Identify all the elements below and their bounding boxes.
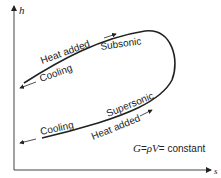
upper-heat-added-label: Heat added [39, 38, 91, 66]
equation: G=ρV= constant [133, 142, 205, 154]
lower-cooling-arrow [20, 139, 36, 143]
x-axis-label: s [214, 166, 218, 176]
fanno-curve [24, 31, 175, 138]
equation-constant: constant [165, 143, 206, 154]
fanno-line-diagram: h s Heat added Cooling Subsonic Superson… [0, 0, 221, 178]
y-axis-label: h [19, 4, 25, 16]
diagram-svg: h s Heat added Cooling Subsonic Superson… [0, 0, 221, 178]
equation-g: G [133, 142, 141, 154]
lower-heat-arrow [140, 110, 152, 116]
upper-cooling-arrow [20, 82, 36, 88]
subsonic-label: Subsonic [100, 35, 142, 52]
